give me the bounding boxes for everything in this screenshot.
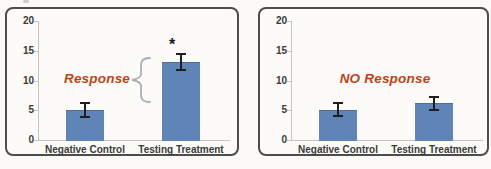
category-label: Negative Control bbox=[283, 144, 393, 155]
category-label: Testing Treatment bbox=[126, 144, 236, 155]
error-bar-cap-top bbox=[333, 102, 343, 104]
error-bar-cap-top bbox=[80, 102, 90, 104]
y-tick-mark bbox=[287, 51, 291, 52]
y-tick-mark bbox=[287, 21, 291, 22]
brace-icon bbox=[126, 57, 152, 103]
y-tick-mark bbox=[287, 110, 291, 111]
error-bar-line bbox=[84, 103, 86, 117]
y-tick-label: 5 bbox=[12, 104, 34, 116]
error-bar-cap-bottom bbox=[176, 69, 186, 71]
figure-two-bar-charts: 05101520Negative ControlTesting Treatmen… bbox=[0, 0, 491, 169]
error-bar-cap-top bbox=[429, 96, 439, 98]
category-label: Negative Control bbox=[30, 144, 140, 155]
bar-testing-treatment bbox=[162, 62, 200, 141]
y-tick-mark bbox=[34, 51, 38, 52]
error-bar-cap-bottom bbox=[429, 109, 439, 111]
y-tick-mark bbox=[287, 81, 291, 82]
bar-chart-panel-no-response: 05101520Negative ControlTesting Treatmen… bbox=[258, 7, 489, 156]
y-tick-label: 10 bbox=[265, 75, 287, 87]
error-bar-cap-bottom bbox=[80, 116, 90, 118]
error-bar-cap-bottom bbox=[333, 115, 343, 117]
y-tick-label: 10 bbox=[12, 75, 34, 87]
y-tick-label: 20 bbox=[265, 15, 287, 27]
bar-chart-panel-response: 05101520Negative ControlTesting Treatmen… bbox=[5, 7, 239, 156]
y-tick-mark bbox=[34, 81, 38, 82]
y-tick-label: 15 bbox=[265, 45, 287, 57]
y-tick-mark bbox=[287, 140, 291, 141]
y-axis-line bbox=[38, 21, 39, 140]
y-tick-label: 15 bbox=[12, 45, 34, 57]
y-tick-label: 20 bbox=[12, 15, 34, 27]
y-axis-line bbox=[291, 21, 292, 140]
annotation-no-response: NO Response bbox=[320, 71, 450, 86]
error-bar-line bbox=[180, 54, 182, 69]
y-tick-mark bbox=[34, 21, 38, 22]
scan-artifact bbox=[23, 0, 29, 3]
y-tick-mark bbox=[34, 140, 38, 141]
category-label: Testing Treatment bbox=[379, 144, 489, 155]
significance-asterisk: * bbox=[169, 37, 175, 53]
y-tick-mark bbox=[34, 110, 38, 111]
y-tick-label: 5 bbox=[265, 104, 287, 116]
error-bar-cap-top bbox=[176, 53, 186, 55]
